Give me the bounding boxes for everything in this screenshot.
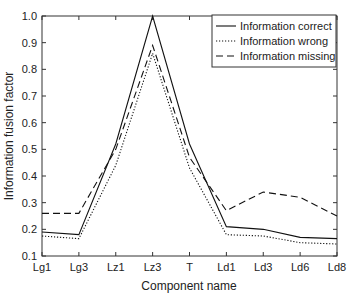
legend: Information correctInformation wrongInfo… xyxy=(212,15,336,67)
x-tick-label: Ld6 xyxy=(291,261,309,273)
y-tick-label: 0.4 xyxy=(22,170,37,182)
x-axis-label: Component name xyxy=(141,279,237,293)
y-tick-label: 0.7 xyxy=(22,90,37,102)
series-information-missing xyxy=(42,45,337,216)
y-tick-label: 0.5 xyxy=(22,143,37,155)
x-tick-label: T xyxy=(186,261,193,273)
x-tick-label: Lg1 xyxy=(33,261,51,273)
legend-label: Information correct xyxy=(240,20,332,32)
y-tick-label: 0.9 xyxy=(22,37,37,49)
y-tick-label: 0.8 xyxy=(22,63,37,75)
legend-label: Information missing xyxy=(240,50,335,62)
x-tick-label: Lg3 xyxy=(70,261,88,273)
line-chart: 0.10.20.30.40.50.60.70.80.91.0Lg1Lg3Lz1L… xyxy=(0,0,350,296)
x-tick-label: Ld1 xyxy=(217,261,235,273)
y-tick-label: 0.2 xyxy=(22,223,37,235)
x-tick-label: Lz3 xyxy=(144,261,162,273)
x-tick-label: Ld3 xyxy=(254,261,272,273)
y-tick-label: 1.0 xyxy=(22,10,37,22)
legend-label: Information wrong xyxy=(240,35,328,47)
y-axis-label: Information fusion factor xyxy=(2,72,16,201)
y-tick-label: 0.6 xyxy=(22,117,37,129)
y-tick-label: 0.3 xyxy=(22,197,37,209)
x-tick-label: Ld8 xyxy=(328,261,346,273)
x-tick-label: Lz1 xyxy=(107,261,125,273)
